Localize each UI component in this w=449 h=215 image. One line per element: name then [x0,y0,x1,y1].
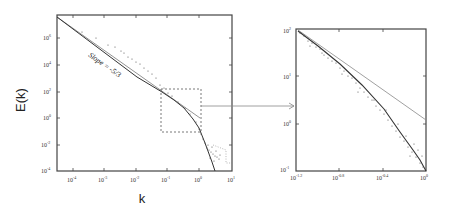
right-x-tick-labels: 10-1.2 10-0.8 10-0.4 100 [290,173,428,181]
svg-text:10-2: 10-2 [41,140,50,148]
svg-text:10-1: 10-1 [161,175,170,183]
svg-text:100: 100 [283,119,291,127]
right-slope-reference-line [298,30,426,120]
right-y-tick-labels: 102 101 100 10-1 [280,26,291,173]
svg-text:106: 106 [43,33,51,41]
svg-text:101: 101 [283,72,291,80]
left-plot-frame [57,15,232,171]
left-x-tick-labels: 10-4 10-3 10-2 10-1 100 101 [67,175,235,183]
left-x-axis-label: k [139,191,146,206]
slope-annotation: Slope = -5/3 [87,50,123,79]
svg-text:10-2: 10-2 [130,175,139,183]
figure: 106 104 102 100 10-2 10-4 10-4 10-3 10-2… [0,0,449,215]
left-y-axis-label: E(k) [13,88,28,112]
svg-text:102: 102 [43,87,51,95]
left-chart: 106 104 102 100 10-2 10-4 10-4 10-3 10-2… [13,15,235,206]
svg-text:10-4: 10-4 [67,175,76,183]
svg-text:10-1: 10-1 [280,165,289,173]
svg-text:100: 100 [194,175,202,183]
svg-text:104: 104 [43,60,51,68]
zoom-arrow [201,103,294,109]
right-model-spectrum-curve [298,31,426,171]
model-spectrum-curve [57,17,215,171]
left-y-tick-labels: 106 104 102 100 10-2 10-4 [41,33,51,174]
svg-text:102: 102 [283,26,291,34]
svg-text:10-0.8: 10-0.8 [332,173,344,181]
tail-dotted-curve [213,145,232,163]
left-x-ticks [73,15,199,171]
svg-text:100: 100 [420,173,428,181]
svg-text:101: 101 [227,175,235,183]
svg-text:100: 100 [43,113,51,121]
svg-text:10-4: 10-4 [41,166,50,174]
right-data-points [299,32,423,167]
right-chart: 102 101 100 10-1 10-1.2 10-0.8 10-0.4 10… [280,26,428,181]
left-y-ticks [57,38,232,145]
slope-reference-line [57,17,200,118]
right-y-ticks [296,76,426,124]
svg-text:10-1.2: 10-1.2 [290,173,302,181]
svg-text:10-3: 10-3 [98,175,107,183]
svg-text:10-0.4: 10-0.4 [376,173,388,181]
right-plot-frame [296,29,426,171]
